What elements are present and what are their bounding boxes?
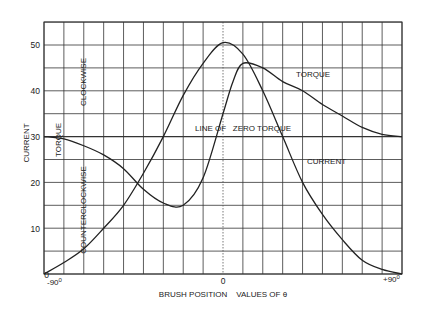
zero-torque-label: LINE OF ZERO TORQUE xyxy=(195,124,291,133)
chart: 50 40 30 20 10 0 -900 0 +900 BRUSH POSIT… xyxy=(0,0,424,313)
torque-vertical-label: TORQUE xyxy=(54,123,63,157)
y-tick-10: 10 xyxy=(31,224,41,234)
clockwise-label: CLOCKWISE xyxy=(79,58,88,106)
current-curve-label: CURRENT xyxy=(307,157,346,166)
x-tick-min: -900 xyxy=(47,277,63,287)
x-tick-max: +900 xyxy=(383,274,401,284)
x-tick-zero: 0 xyxy=(221,276,226,286)
y-axis-label: CURRENT xyxy=(22,123,31,162)
y-tick-30: 30 xyxy=(31,132,41,142)
y-tick-50: 50 xyxy=(31,40,41,50)
y-tick-20: 20 xyxy=(31,178,41,188)
torque-curve-label: TORQUE xyxy=(296,70,330,79)
x-axis-label: BRUSH POSITION VALUES OF θ xyxy=(159,290,288,299)
y-tick-40: 40 xyxy=(31,86,41,96)
counterclockwise-label: COUNTERCLOCKWISE xyxy=(79,166,88,254)
